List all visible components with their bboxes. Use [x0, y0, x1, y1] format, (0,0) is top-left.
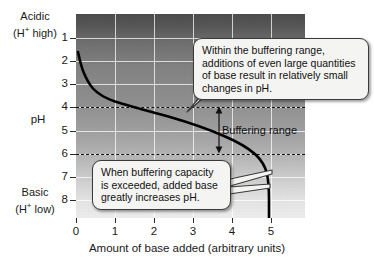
- x-tick-mark: [232, 218, 233, 223]
- y-tick-mark: [70, 61, 76, 62]
- y-tick-mark: [70, 84, 76, 85]
- basic-label-line1: Basic: [2, 186, 68, 199]
- y-tick-mark: [70, 200, 76, 201]
- y-tick-mark: [70, 177, 76, 178]
- x-tick-label: 5: [261, 225, 281, 237]
- y-axis-title: pH: [12, 113, 64, 125]
- x-tick-label: 4: [222, 225, 242, 237]
- x-tick-mark: [154, 218, 155, 223]
- x-tick-mark: [76, 218, 77, 223]
- x-tick-label: 1: [105, 225, 125, 237]
- y-tick-label: 3: [50, 78, 68, 90]
- callout-buffering-range: Within the buffering range, additions of…: [193, 38, 369, 100]
- x-tick-mark: [193, 218, 194, 223]
- x-tick-mark: [115, 218, 116, 223]
- x-axis-title: Amount of base added (arbitrary units): [0, 242, 374, 254]
- callout-buffering-capacity-exceeded: When buffering capacity is exceeded, add…: [92, 160, 231, 210]
- buffering-range-label: Buffering range: [222, 124, 297, 136]
- y-tick-label: 6: [50, 148, 68, 160]
- y-tick-mark: [70, 107, 76, 108]
- acidic-label-line1: Acidic: [2, 10, 68, 23]
- y-tick-label: 5: [50, 125, 68, 137]
- y-tick-label: 4: [50, 101, 68, 113]
- y-tick-label: 7: [50, 171, 68, 183]
- acidic-end-label: Acidic (H+ high): [2, 10, 68, 40]
- x-tick-label: 0: [66, 225, 86, 237]
- x-tick-label: 3: [183, 225, 203, 237]
- x-tick-label: 2: [144, 225, 164, 237]
- ph-buffering-curve-figure: Buffering range 1 2 3 4 5 6 7 8 pH Acidi…: [0, 0, 374, 264]
- y-tick-label: 2: [50, 55, 68, 67]
- y-tick-mark: [70, 38, 76, 39]
- y-tick-mark: [70, 154, 76, 155]
- basic-label-line2: (H+ low): [2, 199, 68, 216]
- acidic-label-line2: (H+ high): [2, 23, 68, 40]
- y-tick-mark: [70, 131, 76, 132]
- basic-end-label: Basic (H+ low): [2, 186, 68, 216]
- x-tick-mark: [271, 218, 272, 223]
